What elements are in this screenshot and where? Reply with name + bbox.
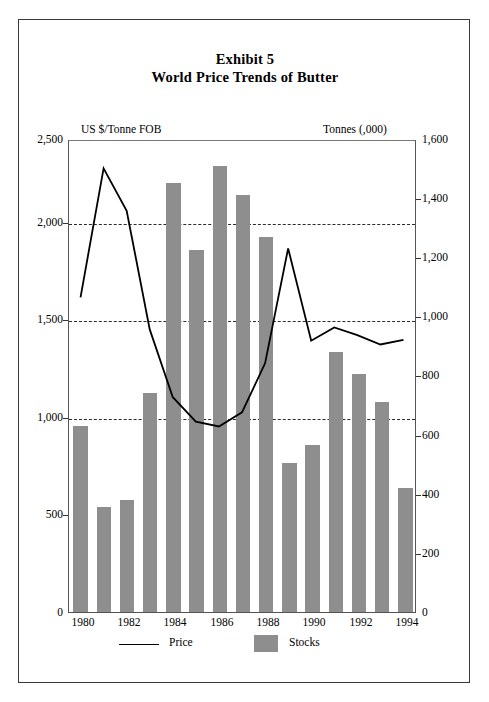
legend-label-stocks: Stocks bbox=[289, 636, 320, 648]
left-axis-tick-1000: 1,000 bbox=[19, 411, 63, 423]
right-axis-tick-800: 800 bbox=[422, 369, 466, 381]
right-axis-tick-1600: 1,600 bbox=[422, 133, 466, 145]
figure-border: Exhibit 5 World Price Trends of Butter U… bbox=[18, 19, 470, 683]
plot-area bbox=[68, 140, 416, 613]
left-axis-tick-1500: 1,500 bbox=[19, 313, 63, 325]
left-axis-tick-2000: 2,000 bbox=[19, 216, 63, 228]
x-axis-tick-1994: 1994 bbox=[385, 616, 429, 628]
legend-label-price: Price bbox=[169, 636, 193, 648]
right-tickmark-600 bbox=[416, 436, 421, 437]
right-axis-tick-1200: 1,200 bbox=[422, 251, 466, 263]
right-tickmark-1400 bbox=[416, 199, 421, 200]
left-axis-tick-500: 500 bbox=[19, 508, 63, 520]
x-axis-tick-1992: 1992 bbox=[339, 616, 383, 628]
x-axis-tick-1986: 1986 bbox=[200, 616, 244, 628]
right-tickmark-200 bbox=[416, 554, 421, 555]
line-series-price bbox=[69, 141, 415, 612]
right-axis-tick-400: 400 bbox=[422, 488, 466, 500]
chart-canvas: US $/Tonne FOB Tonnes (,000) 2,500 2,000… bbox=[19, 20, 471, 684]
x-axis-tick-1980: 1980 bbox=[61, 616, 105, 628]
right-axis-tick-600: 600 bbox=[422, 429, 466, 441]
legend-bar-swatch-icon bbox=[254, 635, 278, 652]
right-axis-tick-1000: 1,000 bbox=[422, 310, 466, 322]
left-axis-tick-0: 0 bbox=[19, 606, 63, 618]
x-axis-tick-1988: 1988 bbox=[246, 616, 290, 628]
left-axis-tick-2500: 2,500 bbox=[19, 133, 63, 145]
figure-page: Exhibit 5 World Price Trends of Butter U… bbox=[0, 0, 489, 702]
left-axis-title: US $/Tonne FOB bbox=[81, 123, 161, 135]
x-axis-tick-1990: 1990 bbox=[292, 616, 336, 628]
right-axis-tick-1400: 1,400 bbox=[422, 192, 466, 204]
right-tickmark-1000 bbox=[416, 317, 421, 318]
right-tickmark-1200 bbox=[416, 258, 421, 259]
right-axis-title: Tonnes (,000) bbox=[323, 123, 387, 135]
chart-legend: Price Stocks bbox=[119, 633, 379, 655]
x-axis-tick-1984: 1984 bbox=[153, 616, 197, 628]
right-tickmark-400 bbox=[416, 495, 421, 496]
right-axis-tick-200: 200 bbox=[422, 547, 466, 559]
right-tickmark-800 bbox=[416, 376, 421, 377]
x-axis-tick-1982: 1982 bbox=[107, 616, 151, 628]
legend-line-swatch-icon bbox=[119, 644, 159, 645]
